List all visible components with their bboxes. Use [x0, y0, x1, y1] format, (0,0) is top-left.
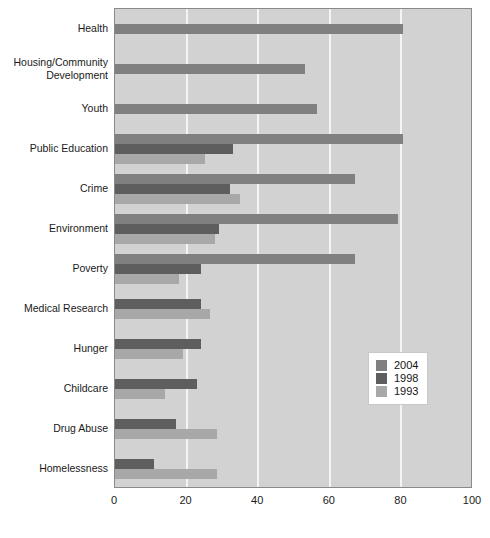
legend-item: 1998: [376, 373, 418, 384]
bar: [115, 389, 165, 399]
legend-swatch-icon: [376, 373, 387, 384]
legend-label: 1998: [394, 373, 418, 384]
gridline-60: [329, 9, 331, 487]
x-tick-label-60: 60: [323, 494, 335, 506]
bar: [115, 144, 233, 154]
bar: [115, 104, 317, 114]
bar: [115, 224, 219, 234]
plot-area: [114, 8, 472, 488]
bar: [115, 264, 201, 274]
bar: [115, 254, 355, 264]
bar: [115, 214, 398, 224]
bar: [115, 459, 154, 469]
legend-label: 1993: [394, 386, 418, 397]
legend-item: 1993: [376, 386, 418, 397]
x-tick-label-80: 80: [394, 494, 406, 506]
bar: [115, 469, 217, 479]
x-axis: 020406080100: [114, 488, 472, 518]
bar-chart: HealthHousing/Community DevelopmentYouth…: [0, 0, 490, 538]
bar: [115, 429, 217, 439]
legend-item: 2004: [376, 360, 418, 371]
bar: [115, 379, 197, 389]
bar: [115, 184, 230, 194]
bar: [115, 419, 176, 429]
category-label: Homelessness: [0, 462, 108, 475]
x-tick-label-20: 20: [179, 494, 191, 506]
legend-swatch-icon: [376, 386, 387, 397]
chart-legend: 200419981993: [368, 352, 428, 405]
bar: [115, 299, 201, 309]
legend-label: 2004: [394, 360, 418, 371]
category-label: Drug Abuse: [0, 422, 108, 435]
bar: [115, 24, 403, 34]
bar: [115, 234, 215, 244]
x-tick-label-0: 0: [111, 494, 117, 506]
category-label: Hunger: [0, 342, 108, 355]
bar: [115, 134, 403, 144]
category-label: Crime: [0, 182, 108, 195]
category-label: Public Education: [0, 142, 108, 155]
category-label: Childcare: [0, 382, 108, 395]
gridline-80: [400, 9, 402, 487]
bar: [115, 154, 205, 164]
y-axis-category-labels: HealthHousing/Community DevelopmentYouth…: [0, 8, 108, 488]
bar: [115, 274, 179, 284]
x-tick-label-40: 40: [251, 494, 263, 506]
gridline-40: [257, 9, 259, 487]
gridline-20: [186, 9, 188, 487]
category-label: Medical Research: [0, 302, 108, 315]
category-label: Housing/Community Development: [0, 56, 108, 81]
legend-swatch-icon: [376, 360, 387, 371]
bar: [115, 194, 240, 204]
bar: [115, 174, 355, 184]
category-label: Environment: [0, 222, 108, 235]
bar: [115, 309, 210, 319]
category-label: Poverty: [0, 262, 108, 275]
bar: [115, 64, 305, 74]
x-tick-label-100: 100: [463, 494, 481, 506]
bar: [115, 349, 183, 359]
bar: [115, 339, 201, 349]
category-label: Health: [0, 22, 108, 35]
category-label: Youth: [0, 102, 108, 115]
